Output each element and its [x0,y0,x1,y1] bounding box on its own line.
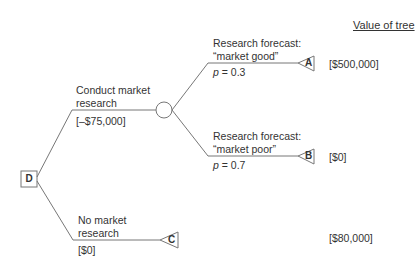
conduct-research-label-2: research [76,97,117,110]
terminal-c-label: C [168,234,175,247]
chance-node [156,102,172,118]
no-research-label-2: research [78,227,119,240]
forecast-good-label-1: Research forecast: [213,37,301,50]
terminal-b-label: B [305,150,312,163]
prob-value: = 0.7 [219,159,246,171]
terminal-c-value: [$80,000] [329,232,373,245]
forecast-poor-label-2: “market poor” [213,143,276,156]
forecast-good-prob: p = 0.3 [213,66,245,79]
no-research-cost: [$0] [78,244,96,257]
forecast-poor-prob: p = 0.7 [213,159,245,172]
forecast-poor-label-1: Research forecast: [213,130,301,143]
terminal-b-value: [$0] [329,151,347,164]
terminal-a-label: A [305,57,312,70]
no-research-label-1: No market [78,214,126,227]
conduct-research-cost: [–$75,000] [76,115,126,128]
terminal-a-value: [$500,000] [329,58,379,71]
conduct-research-label-1: Conduct market [76,84,150,97]
value-of-tree-header: Value of tree [353,19,415,32]
decision-node-label: D [21,173,37,186]
prob-value: = 0.3 [219,66,246,78]
forecast-good-label-2: “market good” [213,50,278,63]
